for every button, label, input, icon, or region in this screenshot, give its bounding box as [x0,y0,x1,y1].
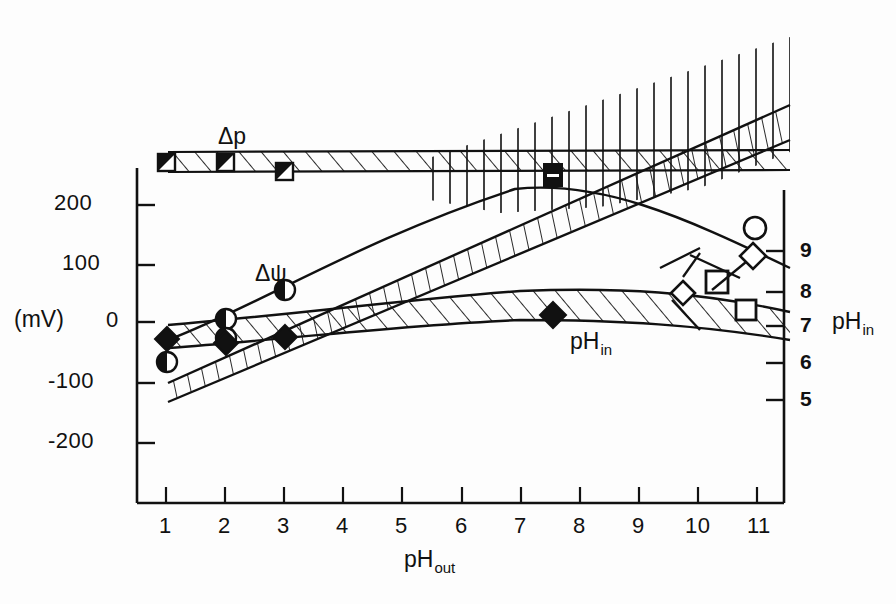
y-tick-label: -200 [48,430,94,452]
data-marker-filled-square-peak [544,164,562,186]
y2-tick-label: 9 [800,239,812,260]
y-axis-title: (mV) [14,308,64,331]
x-tick-label: 5 [395,515,408,537]
y-tick-label: 200 [54,192,92,214]
x-axis-title: pHout [404,548,454,571]
data-marker-half-circle [157,352,177,372]
axis-right [766,190,784,503]
y2-axis-title-sub: in [862,321,874,338]
y2-tick-label: 7 [800,314,812,335]
x-axis-title-main: pH [404,546,433,572]
data-marker-half-square [217,154,234,171]
axis-left [137,168,155,503]
series-label-ph-in: pHin [570,330,611,353]
y2-tick-label: 6 [800,351,812,372]
x-tick-label: 3 [277,515,290,537]
series-label-ph-in-main: pH [570,328,599,354]
series-label-delta-p: Δp [218,125,246,148]
data-marker-half-square [276,163,293,180]
data-marker-open-square [706,271,728,293]
y-tick-label: 0 [106,309,119,331]
y2-axis-title-main: pH [832,308,861,334]
data-marker-open-square [736,300,756,320]
x-tick-label: 2 [218,515,231,537]
y2-tick-label: 8 [800,280,812,301]
data-marker-half-square [158,154,175,171]
x-tick-label: 8 [573,515,586,537]
x-tick-label: 4 [336,515,349,537]
x-tick-label: 1 [159,515,172,537]
x-tick-label: 6 [455,515,468,537]
data-marker-open-circle [744,217,766,239]
x-tick-label: 7 [514,515,527,537]
x-tick-label: 11 [747,515,771,537]
x-axis-title-sub: out [434,559,455,576]
figure-root: 200 100 0 -100 -200 (mV) 1 2 3 4 5 6 7 8… [0,0,896,604]
series-label-delta-psi: Δψ [255,262,287,285]
y2-axis-title: pHin [832,310,873,333]
y2-tick-label: 5 [800,388,812,409]
x-tick-label: 10 [685,515,710,537]
axis-bottom [137,487,784,503]
y-tick-label: 100 [62,252,100,274]
data-marker-half-circle [216,309,236,329]
y-tick-label: -100 [48,370,94,392]
series-label-ph-in-sub: in [600,341,612,358]
x-tick-label: 9 [632,515,645,537]
